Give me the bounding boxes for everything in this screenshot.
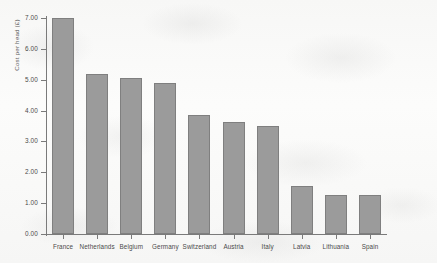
bar-austria (223, 122, 245, 234)
x-tick-label-france: France (53, 243, 73, 250)
bar-netherlands (86, 74, 108, 234)
bar-spain (359, 195, 381, 234)
y-tick-mark (41, 203, 46, 204)
y-tick-label: 0.00 (8, 230, 38, 237)
x-tick-label-germany: Germany (152, 243, 179, 250)
x-tick-mark (165, 235, 166, 239)
y-axis-line (46, 16, 47, 236)
x-tick-mark (234, 235, 235, 239)
bar-germany (154, 83, 176, 234)
x-tick-mark (268, 235, 269, 239)
y-tick-mark (41, 111, 46, 112)
x-tick-label-lithuania: Lithuania (323, 243, 349, 250)
x-tick-label-italy: Italy (262, 243, 274, 250)
bar-switzerland (188, 115, 210, 234)
bar-france (52, 18, 74, 234)
x-tick-label-latvia: Latvia (293, 243, 310, 250)
y-tick-mark (41, 18, 46, 19)
y-tick-label: 3.00 (8, 137, 38, 144)
y-tick-mark (41, 234, 46, 235)
bar-italy (257, 126, 279, 234)
y-tick-label: 5.00 (8, 76, 38, 83)
x-tick-mark (63, 235, 64, 239)
x-tick-mark (370, 235, 371, 239)
y-tick-label: 1.00 (8, 199, 38, 206)
x-tick-label-switzerland: Switzerland (183, 243, 217, 250)
bar-chart-figure: Cost per head (£) 0.001.002.003.004.005.… (0, 0, 437, 263)
x-tick-mark (199, 235, 200, 239)
x-tick-label-austria: Austria (223, 243, 243, 250)
bar-latvia (291, 186, 313, 234)
bar-belgium (120, 78, 142, 234)
x-tick-mark (302, 235, 303, 239)
y-tick-label: 6.00 (8, 45, 38, 52)
x-tick-mark (131, 235, 132, 239)
x-tick-label-spain: Spain (362, 243, 379, 250)
y-tick-label: 4.00 (8, 107, 38, 114)
y-tick-label: 2.00 (8, 168, 38, 175)
y-tick-mark (41, 141, 46, 142)
x-tick-mark (336, 235, 337, 239)
x-tick-mark (97, 235, 98, 239)
y-tick-mark (41, 172, 46, 173)
x-tick-label-belgium: Belgium (120, 243, 143, 250)
y-tick-mark (41, 80, 46, 81)
x-tick-label-netherlands: Netherlands (80, 243, 115, 250)
y-tick-label: 7.00 (8, 14, 38, 21)
bar-lithuania (325, 195, 347, 234)
y-tick-mark (41, 49, 46, 50)
